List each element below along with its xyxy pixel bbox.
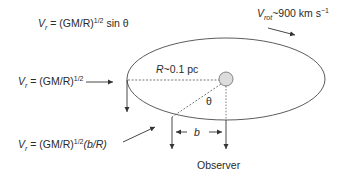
observer-label: Observer (197, 160, 240, 171)
theta-dashed-line (172, 84, 221, 117)
central-mass-icon (219, 72, 233, 86)
vrot-symbol: V (257, 7, 264, 19)
vr-top-exponent: 1/2 (94, 17, 104, 24)
radius-value: ~0.1 pc (164, 63, 199, 75)
vr-bottom-pointer-arrow (123, 127, 155, 142)
vrot-value: ~900 km s (272, 7, 321, 19)
vr-bottom-suffix: (b/R) (83, 138, 106, 150)
theta-label: θ (206, 96, 212, 107)
vr-top-suffix: sin θ (103, 17, 128, 29)
vr-left-label: Vr = (GM/R)1/2 (18, 76, 83, 87)
vr-bottom-formula: = (GM/R) (27, 138, 73, 150)
vr-left-formula: = (GM/R) (27, 75, 73, 87)
b-symbol: b (194, 126, 200, 138)
radius-symbol: R (156, 63, 164, 75)
vr-bottom-exponent: 1/2 (74, 138, 84, 145)
theta-symbol: θ (206, 95, 212, 107)
vr-bottom-label: Vr = (GM/R)1/2(b/R) (18, 139, 107, 150)
vr-left-symbol: V (18, 75, 25, 87)
vr-bottom-symbol: V (18, 138, 25, 150)
rotation-arrow (268, 28, 295, 35)
observer-text: Observer (197, 159, 240, 171)
vr-top-symbol: V (38, 17, 45, 29)
radius-label: R~0.1 pc (156, 64, 198, 75)
vrot-exponent: −1 (321, 7, 329, 14)
vr-top-label: Vr = (GM/R)1/2 sin θ (38, 18, 129, 29)
vr-top-formula: = (GM/R) (47, 17, 93, 29)
b-label: b (194, 127, 200, 138)
vr-left-exponent: 1/2 (74, 75, 84, 82)
vrot-subscript: rot (264, 14, 272, 21)
vrot-label: Vrot~900 km s−1 (257, 8, 329, 19)
